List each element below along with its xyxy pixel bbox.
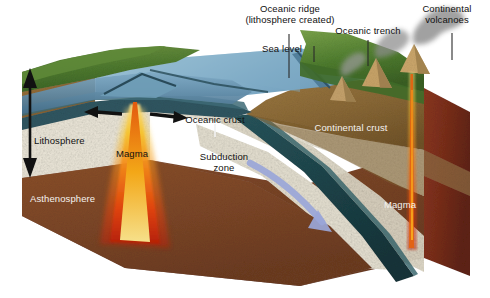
earth-block (22, 8, 470, 286)
block-diagram-illustration (0, 0, 490, 298)
diagram-canvas: Sea level Oceanic ridge (lithosphere cre… (0, 0, 490, 298)
